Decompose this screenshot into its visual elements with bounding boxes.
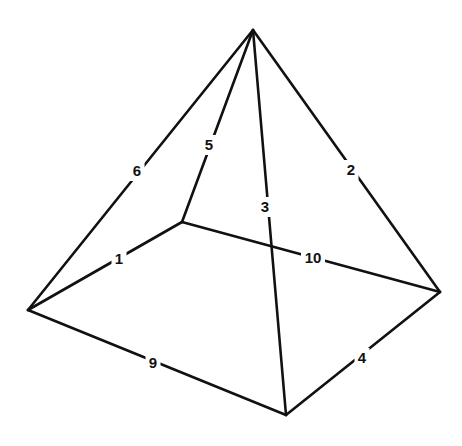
edge-5-label: 5	[205, 136, 213, 153]
labels-group: 123456910	[112, 135, 370, 373]
pyramid-diagram: 123456910	[0, 0, 462, 446]
edge-3-line	[253, 30, 286, 415]
edge-4-label: 4	[358, 349, 367, 366]
edge-1-label: 1	[115, 250, 123, 267]
edge-5-line	[182, 30, 253, 222]
edge-2-label: 2	[347, 161, 355, 178]
edges-group	[28, 30, 440, 415]
edge-3-label: 3	[261, 198, 269, 215]
edge-9-label: 9	[149, 354, 157, 371]
edge-1-line	[28, 222, 182, 310]
edge-6-label: 6	[133, 162, 141, 179]
edge-10-label: 10	[305, 249, 322, 266]
